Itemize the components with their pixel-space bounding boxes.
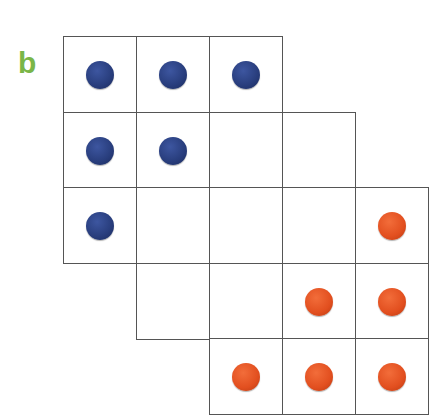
orange-dot-icon [378,288,406,316]
grid-cell [136,187,210,264]
orange-dot-icon [378,363,406,391]
blue-dot-icon [232,61,260,89]
orange-dot-icon [305,288,333,316]
grid-cell [63,112,137,189]
grid-cell [282,338,356,415]
grid-cell [136,263,210,340]
blue-dot-icon [86,137,114,165]
grid-cell [355,187,429,264]
blue-dot-icon [86,61,114,89]
grid-cell [136,112,210,189]
blue-dot-icon [159,137,187,165]
orange-dot-icon [232,363,260,391]
panel-label: b [18,48,36,78]
grid-cell [63,36,137,113]
orange-dot-icon [378,212,406,240]
grid-cell [355,338,429,415]
grid-cell [209,36,283,113]
blue-dot-icon [159,61,187,89]
grid-cell [282,187,356,264]
grid-cell [209,338,283,415]
grid-cell [282,112,356,189]
orange-dot-icon [305,363,333,391]
grid-cell [209,112,283,189]
grid-cell [136,36,210,113]
grid-cell [282,263,356,340]
grid-cell [209,263,283,340]
grid-cell [63,187,137,264]
grid-cell [209,187,283,264]
grid-cell [355,263,429,340]
blue-dot-icon [86,212,114,240]
